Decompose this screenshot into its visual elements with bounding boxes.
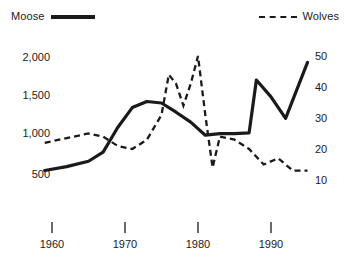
series-line-moose <box>45 62 308 170</box>
plot-area <box>0 0 347 259</box>
population-line-chart: Moose Wolves 2,000 1,500 1,000 500 50 40… <box>0 0 347 259</box>
x-axis-tickmarks <box>52 222 271 233</box>
